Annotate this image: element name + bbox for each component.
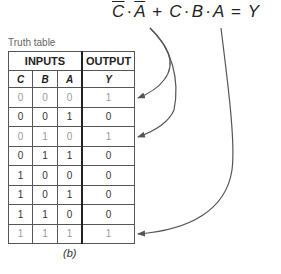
arrow-to-row-010 xyxy=(138,28,176,137)
figure-label: (b) xyxy=(63,247,76,259)
arrows-overlay xyxy=(0,0,281,274)
arrow-to-row-000 xyxy=(138,28,170,98)
